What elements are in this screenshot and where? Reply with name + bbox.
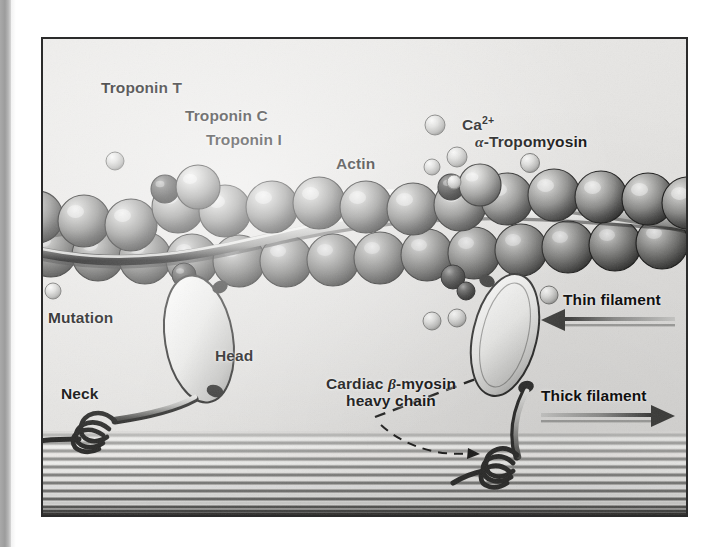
label-actin: Actin — [336, 155, 375, 172]
calcium-charge: 2+ — [482, 114, 494, 126]
tropomyosin-word: Tropomyosin — [489, 133, 587, 150]
alpha-glyph: α — [475, 133, 484, 150]
myosin-line1-post: -myosin — [396, 375, 456, 392]
myosin-line2: heavy chain — [346, 392, 436, 409]
thick-filament-body — [43, 431, 686, 515]
label-myosin-heavy-chain: Cardiac β-myosin heavy chain — [311, 375, 471, 410]
figure-page: Troponin T Troponin C Troponin I Actin C… — [0, 0, 713, 547]
label-troponin-t: Troponin T — [101, 79, 182, 96]
troponin-t-bead — [151, 175, 179, 203]
label-thin-filament: Thin filament — [563, 291, 661, 308]
troponin-c-bead — [176, 165, 220, 209]
scan-gutter-highlight — [11, 0, 16, 547]
sarcomere-illustration — [43, 39, 686, 515]
label-alpha-tropomyosin: α-Tropomyosin — [475, 133, 587, 150]
label-calcium: Ca2+ — [462, 115, 494, 134]
label-neck: Neck — [61, 385, 98, 402]
calcium-symbol: Ca — [462, 116, 482, 133]
label-troponin-i: Troponin I — [206, 131, 282, 148]
illustration-frame: Troponin T Troponin C Troponin I Actin C… — [41, 37, 688, 517]
label-mutation: Mutation — [48, 309, 113, 326]
scan-gutter-strip — [0, 0, 11, 547]
myosin-line1-pre: Cardiac — [326, 375, 388, 392]
label-troponin-c: Troponin C — [185, 107, 268, 124]
label-thick-filament: Thick filament — [541, 387, 647, 404]
beta-glyph: β — [388, 375, 396, 392]
label-head: Head — [215, 347, 253, 364]
